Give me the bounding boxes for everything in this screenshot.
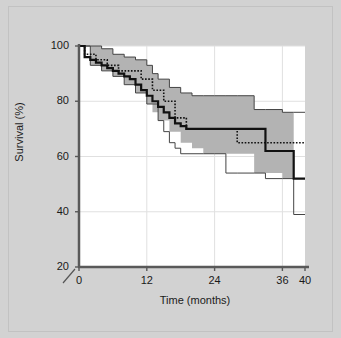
x-tick-label: 24 xyxy=(200,274,230,286)
y-tick-label: 40 xyxy=(41,205,69,217)
x-axis-title: Time (months) xyxy=(75,294,315,306)
x-tick-label: 40 xyxy=(290,274,320,286)
y-tick-label: 80 xyxy=(41,94,69,106)
x-tick-label: 0 xyxy=(64,274,94,286)
y-axis-title: Survival (%) xyxy=(13,87,25,177)
x-tick-label: 12 xyxy=(132,274,162,286)
survival-curve-figure: 20 40 60 80 100 0 12 24 36 40 Survival (… xyxy=(0,0,341,338)
y-tick-label: 60 xyxy=(41,150,69,162)
y-tick-label: 100 xyxy=(41,39,69,51)
y-tick-label: 20 xyxy=(41,260,69,272)
